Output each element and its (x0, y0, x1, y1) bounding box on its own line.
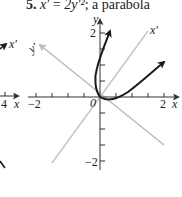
left-fragment: 4 x x′ (0, 37, 20, 168)
left-curve-fragment (0, 161, 5, 168)
x-prime-label: x′ (149, 23, 158, 37)
x-tick-label-neg2: −2 (28, 97, 41, 111)
y-tick-label-neg2: −2 (85, 155, 98, 169)
parabola-diagram: y 2 −2 0 −2 2 x x′ y′ 4 x x′ (0, 0, 182, 197)
left-x-prime-label: x′ (8, 37, 17, 51)
x-axis-label: x (171, 97, 178, 111)
left-x-tick-label-4: 4 (1, 97, 7, 111)
left-x-axis-label: x (13, 97, 20, 111)
origin-label: 0 (90, 96, 96, 110)
y-prime-axis (40, 45, 164, 145)
y-tick-label-2: 2 (90, 26, 96, 40)
x-tick-label-2: 2 (160, 97, 166, 111)
y-axis-label: y (92, 12, 99, 26)
y-prime-label: y′ (25, 40, 41, 57)
